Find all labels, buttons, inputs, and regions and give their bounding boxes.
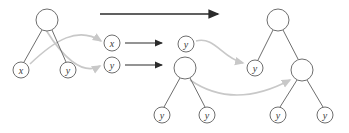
label-sub-right-y: y [204, 110, 210, 121]
edge-root-to-y [52, 30, 66, 62]
node-source-root [36, 9, 58, 31]
label-source-right-y: y [65, 65, 71, 76]
move-y-into-left-slot [196, 40, 243, 63]
label-extracted-y: y [109, 60, 115, 71]
intermediate-subtree-nodes: y y [154, 57, 215, 123]
intermediate-subtree-edges [164, 78, 205, 107]
edge-sub-root-to-left [164, 78, 180, 107]
diagram-svg: x y x y y [0, 0, 349, 133]
source-tree-nodes: x y [13, 9, 76, 78]
edge-res-root-to-left [258, 30, 273, 60]
label-extracted-x: x [109, 38, 115, 49]
source-tree-edges [24, 30, 66, 62]
floating-y-group: y [178, 36, 194, 52]
move-subtree-into-right [190, 80, 290, 95]
extracted-nodes-group: x y [104, 35, 120, 73]
label-result-right-left-y: y [275, 110, 281, 121]
node-result-right [291, 59, 313, 81]
diagram-canvas: x y x y y [0, 0, 349, 133]
edge-res-root-to-right [283, 30, 298, 59]
edge-res-right-to-right [307, 80, 323, 107]
node-result-root [267, 9, 289, 31]
label-floating-y: y [183, 39, 189, 50]
label-result-left-y: y [252, 63, 258, 74]
edge-sub-root-to-right [190, 78, 205, 107]
node-sub-root [174, 57, 196, 79]
label-source-left-x: x [18, 65, 24, 76]
result-tree-nodes: y y y [247, 9, 333, 123]
label-sub-left-y: y [159, 110, 165, 121]
label-result-right-right-y: y [322, 110, 328, 121]
edge-root-to-x [24, 30, 42, 62]
